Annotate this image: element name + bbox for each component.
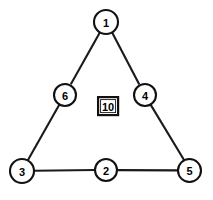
node-3[interactable]: 3 bbox=[10, 159, 34, 183]
node-1-label: 1 bbox=[103, 17, 109, 29]
node-2[interactable]: 2 bbox=[95, 159, 117, 181]
node-3-label: 3 bbox=[19, 166, 25, 178]
edge-4-to-5 bbox=[151, 105, 185, 161]
node-5-label: 5 bbox=[186, 165, 192, 177]
center-sum-box[interactable]: 10 bbox=[98, 97, 118, 115]
node-1[interactable]: 1 bbox=[94, 10, 118, 34]
node-4[interactable]: 4 bbox=[134, 84, 156, 106]
node-6[interactable]: 6 bbox=[54, 84, 76, 106]
edge-1-to-6 bbox=[71, 32, 100, 84]
node-4-label: 4 bbox=[142, 90, 149, 102]
triangle-diagram: 1 6 4 3 2 5 10 bbox=[0, 0, 213, 200]
node-5[interactable]: 5 bbox=[178, 159, 201, 182]
node-6-label: 6 bbox=[62, 90, 68, 102]
edge-6-to-3 bbox=[28, 105, 60, 161]
node-2-label: 2 bbox=[103, 165, 109, 177]
edge-1-to-4 bbox=[112, 32, 139, 84]
center-sum-box-label: 10 bbox=[102, 101, 114, 113]
edge-3-to-2 bbox=[34, 170, 95, 171]
diagram-canvas: 1 6 4 3 2 5 10 bbox=[0, 0, 213, 200]
